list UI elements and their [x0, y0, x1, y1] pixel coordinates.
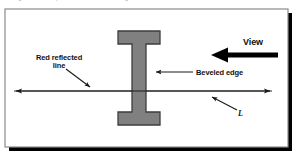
label-beveled-edge: Beveled edge — [196, 69, 243, 77]
figure-container: g p g — [0, 0, 294, 153]
label-view: View — [243, 38, 263, 47]
diagram-svg — [0, 0, 294, 153]
label-length: L — [238, 110, 243, 118]
diagram-stage: Red reflected line Beveled edge View L — [0, 0, 294, 153]
label-red-reflected-line: Red reflected line — [22, 54, 96, 70]
